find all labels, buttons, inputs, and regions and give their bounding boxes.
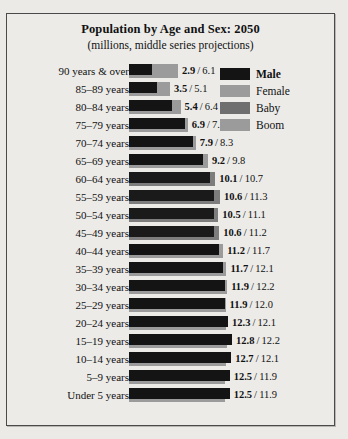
value-female: 11.3 bbox=[249, 191, 267, 202]
value-label: 11.9 / 12.0 bbox=[230, 296, 273, 314]
bar-male bbox=[129, 334, 232, 345]
chart-legend: MaleFemaleBabyBoom bbox=[220, 66, 324, 134]
age-group-label: Under 5 years bbox=[0, 386, 129, 404]
age-group-label: 75–79 years bbox=[0, 116, 129, 134]
value-label: 11.9 / 12.2 bbox=[231, 278, 274, 296]
value-label: 2.9 / 6.1 bbox=[182, 62, 215, 80]
value-female: 12.1 bbox=[255, 263, 273, 274]
bar-group bbox=[129, 134, 196, 152]
age-group-label: 15–19 years bbox=[0, 332, 129, 350]
value-female: 11.9 bbox=[259, 389, 277, 400]
value-male: 12.5 bbox=[234, 389, 252, 400]
value-male: 3.5 bbox=[174, 83, 187, 94]
bar-male bbox=[129, 280, 225, 291]
bar-group bbox=[129, 296, 226, 314]
value-female: 12.1 bbox=[261, 353, 279, 364]
age-group-label: 60–64 years bbox=[0, 170, 129, 188]
value-female: 12.2 bbox=[256, 281, 274, 292]
value-male: 11.9 bbox=[230, 299, 248, 310]
value-label: 12.5 / 11.9 bbox=[234, 386, 278, 404]
value-male: 7.9 bbox=[200, 137, 213, 148]
bar-group bbox=[129, 224, 219, 242]
chart-row: 20–24 years12.3 / 12.1 bbox=[7, 314, 334, 332]
bar-male bbox=[129, 64, 152, 75]
bar-male bbox=[129, 352, 231, 363]
value-male: 10.5 bbox=[222, 209, 240, 220]
value-label: 12.8 / 12.2 bbox=[236, 332, 280, 350]
bar-group bbox=[129, 170, 215, 188]
value-label: 7.9 / 8.3 bbox=[200, 134, 233, 152]
bar-male bbox=[129, 208, 214, 219]
value-female: 11.9 bbox=[259, 371, 277, 382]
bar-group bbox=[129, 98, 181, 116]
bar-group bbox=[129, 386, 230, 404]
top-margin-strip bbox=[0, 0, 348, 12]
value-female: 11.7 bbox=[252, 245, 270, 256]
bar-group bbox=[129, 80, 170, 98]
value-separator: / bbox=[242, 227, 249, 238]
value-separator: / bbox=[247, 299, 254, 310]
chart-row: 35–39 years11.7 / 12.1 bbox=[7, 260, 334, 278]
bar-group bbox=[129, 314, 228, 332]
legend-item: Male bbox=[220, 66, 324, 83]
value-male: 12.3 bbox=[232, 317, 250, 328]
age-group-label: 5–9 years bbox=[0, 368, 129, 386]
value-female: 12.1 bbox=[258, 317, 276, 328]
age-group-label: 35–39 years bbox=[0, 260, 129, 278]
age-group-label: 50–54 years bbox=[0, 206, 129, 224]
chart-row: 45–49 years10.6 / 11.2 bbox=[7, 224, 334, 242]
chart-screenshot: Population by Age and Sex: 2050 (million… bbox=[0, 0, 348, 439]
value-label: 5.4 / 6.4 bbox=[185, 98, 218, 116]
age-group-label: 55–59 years bbox=[0, 188, 129, 206]
age-group-label: 25–29 years bbox=[0, 296, 129, 314]
chart-row: 30–34 years11.9 / 12.2 bbox=[7, 278, 334, 296]
value-male: 11.9 bbox=[231, 281, 249, 292]
legend-label: Female bbox=[256, 83, 290, 100]
bar-group bbox=[129, 350, 231, 368]
value-male: 6.9 bbox=[192, 119, 205, 130]
value-male: 11.2 bbox=[227, 245, 245, 256]
bar-group bbox=[129, 206, 218, 224]
value-label: 11.2 / 11.7 bbox=[227, 242, 270, 260]
value-female: 12.0 bbox=[255, 299, 273, 310]
value-male: 12.7 bbox=[235, 353, 253, 364]
bar-male bbox=[129, 172, 210, 183]
value-label: 12.3 / 12.1 bbox=[232, 314, 276, 332]
chart-row: 25–29 years11.9 / 12.0 bbox=[7, 296, 334, 314]
value-label: 10.6 / 11.3 bbox=[224, 188, 268, 206]
age-group-label: 80–84 years bbox=[0, 98, 129, 116]
value-male: 5.4 bbox=[185, 101, 198, 112]
chart-row: 5–9 years12.5 / 11.9 bbox=[7, 368, 334, 386]
bar-group bbox=[129, 368, 230, 386]
bar-group bbox=[129, 62, 178, 80]
bar-male bbox=[129, 298, 225, 309]
chart-row: 55–59 years10.6 / 11.3 bbox=[7, 188, 334, 206]
value-male: 12.5 bbox=[234, 371, 252, 382]
bar-male bbox=[129, 82, 157, 93]
value-female: 11.1 bbox=[248, 209, 266, 220]
value-label: 9.2 / 9.8 bbox=[212, 152, 245, 170]
age-group-label: 45–49 years bbox=[0, 224, 129, 242]
value-male: 10.6 bbox=[224, 191, 242, 202]
value-separator: / bbox=[241, 209, 248, 220]
value-separator: / bbox=[198, 101, 205, 112]
value-label: 10.5 / 11.1 bbox=[222, 206, 266, 224]
value-female: 12.2 bbox=[262, 335, 280, 346]
age-group-label: 90 years & over bbox=[0, 62, 129, 80]
value-label: 11.7 / 12.1 bbox=[230, 260, 273, 278]
chart-row: 10–14 years12.7 / 12.1 bbox=[7, 350, 334, 368]
legend-label: Male bbox=[256, 66, 281, 83]
bar-male bbox=[129, 370, 230, 381]
bar-male bbox=[129, 100, 172, 111]
value-separator: / bbox=[254, 353, 261, 364]
chart-header: Population by Age and Sex: 2050 (million… bbox=[7, 22, 334, 53]
age-group-label: 30–34 years bbox=[0, 278, 129, 296]
value-label: 10.1 / 10.7 bbox=[219, 170, 263, 188]
boom-swatch bbox=[220, 119, 250, 131]
legend-item: Female bbox=[220, 83, 324, 100]
age-group-label: 10–14 years bbox=[0, 350, 129, 368]
bar-male bbox=[129, 262, 223, 273]
value-female: 11.2 bbox=[249, 227, 267, 238]
legend-item: Baby bbox=[220, 100, 324, 117]
chart-panel: Population by Age and Sex: 2050 (million… bbox=[6, 13, 335, 426]
